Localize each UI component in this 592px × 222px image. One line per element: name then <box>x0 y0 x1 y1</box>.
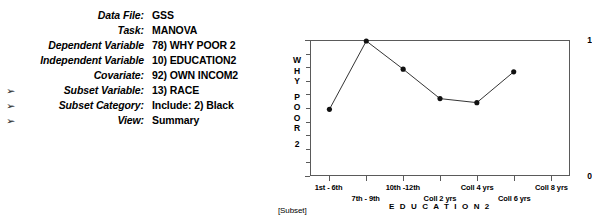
parameter-label: Task: <box>14 23 152 38</box>
data-point-marker <box>401 67 406 72</box>
data-series-svg <box>311 41 569 175</box>
series-line <box>329 41 513 109</box>
parameter-value: 78) WHY POOR 2 <box>152 38 278 53</box>
x-axis-tick <box>551 176 552 181</box>
y-axis-tick <box>305 176 310 177</box>
x-axis-tick <box>403 176 404 181</box>
x-axis-tick-label: Coll 4 yrs <box>461 183 494 192</box>
parameter-value: 13) RACE <box>152 83 278 98</box>
y-axis-title-char: P <box>291 92 303 103</box>
parameter-label: Data File: <box>14 8 152 23</box>
parameter-value: 10) EDUCATION2 <box>152 53 278 68</box>
parameter-label: Subset Category: <box>14 98 152 113</box>
x-axis-tick-label: 1st - 6th <box>315 183 343 192</box>
selection-arrow-icon: ➢ <box>0 99 16 114</box>
parameter-value: 92) OWN INCOM2 <box>152 68 278 83</box>
data-point-marker <box>327 107 332 112</box>
parameter-row: Data File: GSS <box>0 8 278 23</box>
plot-area <box>310 40 570 176</box>
parameter-label: Covariate: <box>14 68 152 83</box>
y-axis-title-char: Y <box>291 76 303 87</box>
parameter-value: MANOVA <box>152 23 278 38</box>
parameter-value: Summary <box>152 113 278 128</box>
data-point-marker <box>437 96 442 101</box>
parameter-row: Task: MANOVA <box>0 23 278 38</box>
parameter-label: View: <box>14 113 152 128</box>
line-chart: WHYPOOR2 01 1st - 6th7th - 9th10th -12th… <box>275 0 592 222</box>
data-point-marker <box>511 69 516 74</box>
y-axis-title-char: 2 <box>291 139 303 150</box>
x-axis-tick <box>514 176 515 181</box>
series-markers <box>327 38 516 111</box>
parameter-row-view: ➢ View: Summary <box>0 113 278 128</box>
parameter-label: Subset Variable: <box>14 83 152 98</box>
data-point-marker <box>364 38 369 43</box>
y-axis-title-char: O <box>291 102 303 113</box>
x-axis-tick-label: 10th -12th <box>386 183 420 192</box>
selection-arrow-icon: ➢ <box>0 84 16 99</box>
y-axis-title-char: R <box>291 123 303 134</box>
parameter-value: GSS <box>152 8 278 23</box>
parameter-row: Dependent Variable 78) WHY POOR 2 <box>0 38 278 53</box>
parameter-row: Covariate: 92) OWN INCOM2 <box>0 68 278 83</box>
x-axis-tick <box>440 176 441 181</box>
parameter-row: Independent Variable 10) EDUCATION2 <box>0 53 278 68</box>
x-axis-title: E D U C A T I O N 2 <box>310 202 570 211</box>
parameter-label: Dependent Variable <box>14 38 152 53</box>
x-axis-tick-label: Coll 8 yrs <box>535 183 568 192</box>
parameter-label: Independent Variable <box>14 53 152 68</box>
parameter-panel: Data File: GSS Task: MANOVA Dependent Va… <box>0 8 278 128</box>
x-axis-tick <box>477 176 478 181</box>
data-point-marker <box>474 100 479 105</box>
selection-arrow-icon: ➢ <box>0 114 16 129</box>
y-axis-title-char: H <box>291 66 303 77</box>
parameter-row-subset-category: ➢ Subset Category: Include: 2) Black <box>0 98 278 113</box>
parameter-value: Include: 2) Black <box>152 98 278 113</box>
subset-footnote: [Subset] <box>278 206 307 215</box>
x-axis-tick <box>329 176 330 181</box>
x-axis-tick <box>366 176 367 181</box>
y-axis-title-char: W <box>291 55 303 66</box>
parameter-row-subset-variable: ➢ Subset Variable: 13) RACE <box>0 83 278 98</box>
y-axis-title: WHYPOOR2 <box>291 55 303 149</box>
y-axis-title-char: O <box>291 113 303 124</box>
